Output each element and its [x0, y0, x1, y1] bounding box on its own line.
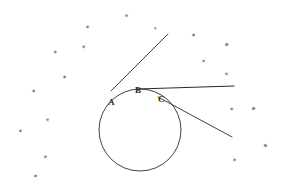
vertex-label-a: A	[108, 98, 115, 107]
geometry-figure	[0, 0, 284, 188]
vertex-label-b: B	[135, 86, 141, 95]
speckle-mark: ✶	[62, 74, 68, 80]
tangent-at-B	[137, 86, 234, 89]
speckle-mark: ✶	[33, 173, 39, 180]
speckle-mark: ✶	[18, 128, 24, 134]
diagram-canvas: ✶✶✶✶✶✶✶✶✶✶✶✶✶✶✶✶✶✶✶ ABC	[0, 0, 284, 188]
line-from-C	[158, 97, 232, 137]
speckle-mark: ✶	[223, 42, 230, 50]
vertex-label-c: C	[158, 95, 165, 104]
speckle-mark: ✶	[191, 32, 197, 39]
line-from-A	[111, 34, 168, 91]
